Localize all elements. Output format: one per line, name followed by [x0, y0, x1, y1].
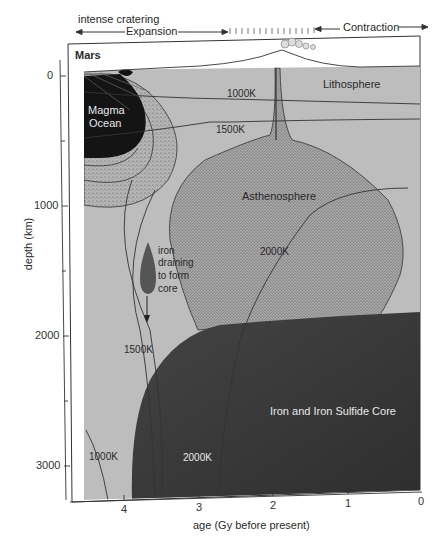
y-tick-0: 0 — [47, 69, 53, 81]
y-tick-1000: 1000 — [34, 199, 58, 211]
intense-cratering-label: intense cratering — [78, 13, 159, 25]
contraction-label: Contraction — [343, 21, 399, 33]
x-tick-0: 0 — [418, 495, 424, 507]
x-tick-1: 1 — [345, 497, 351, 509]
isotherm-1000k-upper: 1000K — [227, 88, 256, 99]
isotherm-2000k-mid: 2000K — [260, 246, 289, 257]
magma-ocean-label-1: Magma — [88, 104, 125, 116]
isotherm-2000k-lower: 2000K — [183, 452, 212, 463]
asthenosphere-label: Asthenosphere — [242, 190, 316, 202]
y-tick-3000: 3000 — [36, 459, 60, 471]
y-axis-label: depth (km) — [22, 204, 34, 284]
expansion-label: Expansion — [126, 25, 177, 37]
figure-title: Mars — [75, 49, 101, 61]
magma-ocean-label-2: Ocean — [89, 117, 121, 129]
isotherm-1500k-lower: 1500K — [124, 344, 153, 355]
iron-label-1: iron — [158, 245, 175, 256]
x-tick-2: 2 — [270, 499, 276, 511]
y-tick-2000: 2000 — [35, 329, 59, 341]
isotherm-1000k-lower: 1000K — [89, 451, 118, 462]
x-axis-label: age (Gy before present) — [193, 519, 310, 531]
x-tick-3: 3 — [196, 501, 202, 513]
lithosphere-label: Lithosphere — [323, 78, 381, 90]
core-label: Iron and Iron Sulfide Core — [270, 405, 396, 417]
transition-hatch — [230, 27, 314, 34]
iron-label-2: draining — [158, 257, 194, 268]
iron-label-4: core — [158, 283, 177, 294]
iron-label-3: to form — [158, 270, 189, 281]
isotherm-1500k-upper: 1500K — [216, 124, 245, 135]
x-tick-4: 4 — [121, 503, 127, 515]
